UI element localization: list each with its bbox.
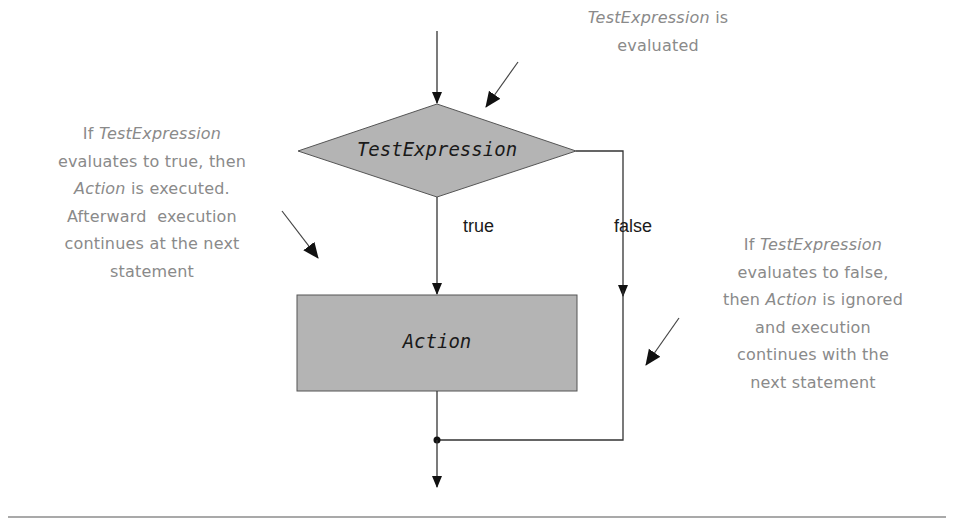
- left-annotation-line4: Afterward execution: [32, 203, 272, 231]
- top-annotation-text: is: [710, 8, 728, 27]
- left-annotation-line2: evaluates to true, then: [32, 148, 272, 176]
- top-annotation-pointer-arrow: [486, 62, 518, 107]
- left-annotation-action-keyword: Action: [74, 179, 126, 198]
- right-annotation-then: then: [723, 290, 765, 309]
- right-annotation-line3: is ignored: [817, 290, 903, 309]
- right-annotation-line4: and execution: [693, 314, 933, 342]
- right-annotation-pointer-arrow: [646, 318, 679, 365]
- right-annotation-line2: evaluates to false,: [693, 259, 933, 287]
- right-annotation-keyword: TestExpression: [760, 235, 882, 254]
- top-annotation-keyword: TestExpression: [588, 8, 710, 27]
- false-edge-label: false: [614, 216, 652, 237]
- right-annotation-if: If: [744, 235, 760, 254]
- top-annotation: TestExpression is evaluated: [558, 4, 758, 59]
- if-statement-flowchart: TestExpression Action true false TestExp…: [0, 0, 954, 532]
- top-annotation-line2: evaluated: [558, 32, 758, 60]
- left-annotation-if: If: [83, 124, 99, 143]
- right-annotation-line5: continues with the: [693, 341, 933, 369]
- action-label: Action: [297, 330, 577, 352]
- left-annotation-line3: is executed.: [126, 179, 230, 198]
- left-annotation-keyword: TestExpression: [99, 124, 221, 143]
- left-annotation-line6: statement: [32, 258, 272, 286]
- right-annotation-line6: next statement: [693, 369, 933, 397]
- right-annotation: If TestExpression evaluates to false, th…: [693, 231, 933, 396]
- right-annotation-action-keyword: Action: [765, 290, 817, 309]
- true-edge-label: true: [463, 216, 494, 237]
- decision-label: TestExpression: [298, 138, 576, 160]
- left-annotation-pointer-arrow: [282, 211, 318, 258]
- left-annotation-line5: continues at the next: [32, 230, 272, 258]
- left-annotation: If TestExpression evaluates to true, the…: [32, 120, 272, 285]
